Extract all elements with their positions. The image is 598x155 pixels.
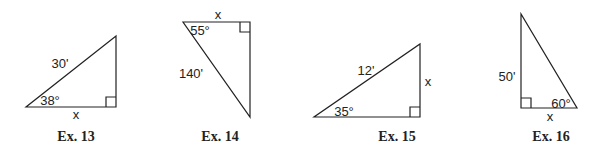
angle-label-ex15: 35° <box>334 105 354 118</box>
right-angle-marker-ex13 <box>106 97 116 107</box>
caption-ex15: Ex. 15 <box>378 130 415 144</box>
hypotenuse-label-ex15: 12' <box>358 64 375 77</box>
angle-label-ex13: 38° <box>40 94 60 107</box>
unknown-label-ex16: x <box>547 110 554 123</box>
unknown-label-ex14: x <box>215 8 222 21</box>
triangle-ex15 <box>314 44 420 117</box>
unknown-label-ex13: x <box>73 108 80 121</box>
triangle-ex16 <box>521 14 577 108</box>
caption-ex16: Ex. 16 <box>532 130 569 144</box>
caption-ex13: Ex. 13 <box>57 130 94 144</box>
triangle-exercises: 30' 38° x Ex. 13 x 55° 140' Ex. 14 12' x… <box>0 0 598 155</box>
right-angle-marker-ex16 <box>521 98 531 108</box>
hypotenuse-label-ex13: 30' <box>52 57 69 70</box>
right-angle-marker-ex15 <box>410 107 420 117</box>
hypotenuse-label-ex14: 140' <box>179 67 203 80</box>
side-label-ex16: 50' <box>499 70 516 83</box>
right-angle-marker-ex14 <box>240 22 250 32</box>
caption-ex14: Ex. 14 <box>201 130 238 144</box>
unknown-label-ex15: x <box>425 75 432 88</box>
angle-label-ex14: 55° <box>190 24 210 37</box>
angle-label-ex16: 60° <box>551 97 571 110</box>
